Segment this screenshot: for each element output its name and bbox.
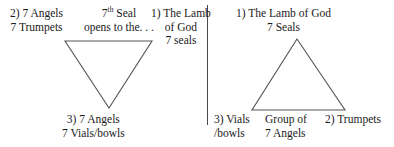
right-label-lamb-line1: 1) The Lamb of God (236, 7, 331, 21)
right-label-vials: 3) Vials /bowls (214, 113, 250, 140)
left-label-seventh-seal-line2: opens to the. . . (84, 21, 154, 35)
right-triangle-up (252, 39, 345, 110)
right-label-trumpets-line1: 2) Trumpets (325, 113, 381, 127)
seventh-seal-word: Seal (113, 7, 136, 19)
left-label-lamb-line1: 1) The Lamb (151, 7, 211, 21)
left-label-seventh-seal: 7th Seal opens to the. . . (84, 7, 154, 34)
left-label-vials-line2: 7 Vials/bowls (62, 127, 125, 141)
right-label-group-line2: 7 Angels (265, 127, 307, 141)
right-label-lamb-line2: 7 Seals (236, 21, 331, 35)
left-label-lamb-of-god: 1) The Lamb of God 7 seals (151, 7, 211, 48)
left-label-vials: 3) 7 Angels 7 Vials/bowls (62, 113, 125, 140)
right-label-vials-line2: /bowls (214, 127, 250, 141)
right-label-group-line1: Group of (265, 113, 307, 127)
left-triangle-down (65, 41, 152, 108)
left-label-trumpets-line2: 7 Trumpets (10, 21, 63, 35)
right-label-trumpets: 2) Trumpets (325, 113, 381, 127)
right-label-vials-line1: 3) Vials (214, 113, 250, 127)
left-label-seventh-seal-line1: 7th Seal (84, 7, 154, 21)
right-label-lamb-of-god: 1) The Lamb of God 7 Seals (236, 7, 331, 34)
left-label-trumpets-line1: 2) 7 Angels (10, 7, 63, 21)
left-label-lamb-line3: 7 seals (151, 34, 211, 48)
diagram-canvas: 2) 7 Angels 7 Trumpets 7th Seal opens to… (0, 0, 394, 147)
left-label-trumpets: 2) 7 Angels 7 Trumpets (10, 7, 63, 34)
left-label-lamb-line2: of God (151, 21, 211, 35)
left-label-vials-line1: 3) 7 Angels (62, 113, 125, 127)
right-label-group-of-angels: Group of 7 Angels (265, 113, 307, 140)
